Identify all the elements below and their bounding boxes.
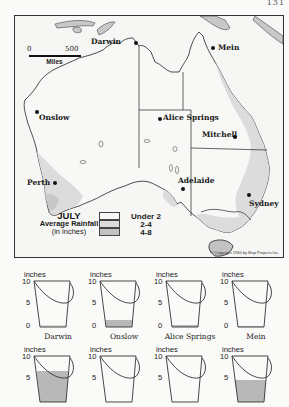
bucket-city-label: Mein bbox=[230, 332, 282, 341]
city-label: Sydney bbox=[249, 199, 279, 208]
bucket-icon bbox=[216, 345, 284, 407]
bucket-icon bbox=[18, 270, 86, 332]
rainfall-bucket-onslow: inches 10 5 0 Onslow bbox=[84, 270, 152, 340]
bucket-icon bbox=[150, 270, 218, 332]
city-dot-icon bbox=[211, 46, 215, 50]
australia-rainfall-map: 0 500 Miles Darwin Mein Onslow Alice Spr… bbox=[14, 15, 284, 258]
city-label: Adelaide bbox=[178, 176, 214, 185]
city-dot-icon bbox=[247, 193, 251, 197]
city-dot-icon bbox=[53, 181, 57, 185]
rainfall-bucket-mitchell: inches 10 5 bbox=[150, 345, 218, 407]
rainfall-bucket-perth: inches 10 5 bbox=[18, 345, 86, 407]
scale-unit: Miles bbox=[27, 58, 82, 65]
legend-swatch bbox=[99, 228, 120, 236]
legend-swatch bbox=[99, 212, 120, 220]
bucket-icon bbox=[150, 345, 218, 407]
city-label: Onslow bbox=[39, 113, 70, 122]
rainfall-legend: Under 2 2-4 4-8 bbox=[99, 212, 166, 236]
map-scale: 0 500 Miles bbox=[27, 45, 82, 65]
city-dot-icon bbox=[233, 135, 237, 139]
scale-end: 500 bbox=[65, 45, 78, 53]
legend-item: 4-8 bbox=[99, 228, 166, 236]
copyright-notice: © Copyright 1960 by Map Projects Inc. bbox=[210, 250, 279, 255]
map-unit-note: (in inches) bbox=[29, 228, 109, 236]
city-label: Alice Springs bbox=[163, 113, 219, 122]
bucket-icon bbox=[216, 270, 284, 332]
bucket-icon bbox=[18, 345, 86, 407]
city-label: Darwin bbox=[91, 37, 121, 46]
scale-start: 0 bbox=[27, 45, 31, 53]
city-dot-icon bbox=[181, 187, 185, 191]
scale-bar bbox=[29, 55, 81, 57]
legend-title: JULY Average Rainfall (in inches) bbox=[29, 212, 109, 236]
city-label: Mein bbox=[218, 43, 239, 52]
bucket-city-label: Alice Springs bbox=[164, 332, 216, 341]
city-label: Perth bbox=[27, 178, 50, 187]
bucket-city-label: Onslow bbox=[98, 332, 150, 341]
bucket-city-label: Darwin bbox=[32, 332, 84, 341]
bucket-icon bbox=[84, 345, 152, 407]
rainfall-bucket-sydney: inches 10 5 bbox=[216, 345, 284, 407]
page-number: 131 bbox=[267, 0, 285, 7]
city-dot-icon bbox=[158, 117, 162, 121]
bucket-icon bbox=[84, 270, 152, 332]
city-label: Mitchell bbox=[202, 130, 237, 139]
legend-label: 4-8 bbox=[126, 228, 166, 237]
rainfall-bucket-adelaide: inches 10 5 bbox=[84, 345, 152, 407]
rainfall-bucket-alice-springs: inches 10 5 0 Alice Springs bbox=[150, 270, 218, 340]
rainfall-bucket-mein: inches 10 5 0 Mein bbox=[216, 270, 284, 340]
rainfall-bucket-darwin: inches 10 5 0 Darwin bbox=[18, 270, 86, 340]
city-dot-icon bbox=[134, 41, 138, 45]
legend-swatch bbox=[99, 220, 120, 228]
